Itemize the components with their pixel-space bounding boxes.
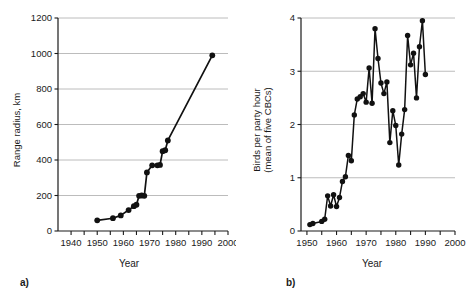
panel-b-tickmarks (298, 18, 456, 235)
panel-a-x-tick-labels: 1940195019601970198019902000 (61, 237, 236, 248)
panel-b-x-tick-labels: 195019601970198019902000 (296, 237, 465, 248)
panel-b: 195019601970198019902000 01234 Year Bird… (236, 0, 473, 295)
svg-text:2000: 2000 (217, 237, 236, 248)
svg-text:3: 3 (290, 66, 295, 77)
svg-text:1: 1 (290, 172, 295, 183)
panel-a-gridlines (58, 18, 228, 196)
svg-text:400: 400 (36, 154, 52, 165)
figure-two-panel-chart: 1940195019601970198019902000 02004006008… (0, 0, 473, 295)
svg-text:1200: 1200 (31, 12, 52, 23)
svg-text:4: 4 (290, 12, 295, 23)
panel-b-data-series (307, 18, 428, 227)
panel-a: 1940195019601970198019902000 02004006008… (0, 0, 236, 295)
panel-b-y-axis-title-line2: (mean of five CBCs) (262, 87, 273, 173)
panel-a-plot: 1940195019601970198019902000 02004006008… (0, 0, 236, 295)
svg-text:200: 200 (36, 190, 52, 201)
panel-a-label: a) (20, 277, 29, 288)
svg-text:1990: 1990 (415, 237, 436, 248)
svg-text:1950: 1950 (296, 237, 317, 248)
panel-b-label: b) (286, 277, 295, 288)
panel-a-tickmarks (55, 18, 229, 235)
svg-text:1960: 1960 (326, 237, 347, 248)
svg-text:0: 0 (47, 225, 52, 236)
panel-b-x-axis-title: Year (362, 258, 383, 269)
svg-text:1970: 1970 (356, 237, 377, 248)
svg-text:1940: 1940 (61, 237, 82, 248)
panel-a-y-axis-title: Range radius, km (11, 93, 22, 168)
panel-b-y-tick-labels: 01234 (290, 12, 295, 236)
svg-text:1950: 1950 (87, 237, 108, 248)
svg-text:0: 0 (290, 225, 295, 236)
panel-a-y-tick-labels: 020040060080010001200 (31, 12, 52, 236)
svg-text:1980: 1980 (385, 237, 406, 248)
svg-text:800: 800 (36, 83, 52, 94)
panel-b-y-axis-title-line1: Birds per party hour (251, 88, 262, 171)
svg-text:1000: 1000 (31, 48, 52, 59)
panel-b-gridlines (301, 18, 455, 178)
svg-text:1970: 1970 (139, 237, 160, 248)
panel-a-x-axis-title: Year (119, 258, 140, 269)
svg-text:2000: 2000 (444, 237, 465, 248)
panel-a-data-series (94, 52, 215, 223)
svg-text:600: 600 (36, 119, 52, 130)
svg-text:1980: 1980 (165, 237, 186, 248)
panel-b-plot: 195019601970198019902000 01234 Year Bird… (236, 0, 473, 295)
svg-text:1960: 1960 (113, 237, 134, 248)
svg-text:2: 2 (290, 119, 295, 130)
svg-text:1990: 1990 (191, 237, 212, 248)
